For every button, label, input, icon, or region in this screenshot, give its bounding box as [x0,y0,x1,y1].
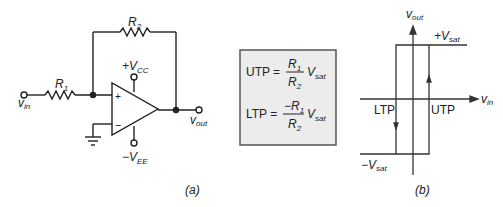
hysteresis-graph [360,26,478,175]
up-arrow-icon [427,76,431,82]
output-node [174,108,179,113]
circuit-diagram [21,28,202,146]
vout-terminal [196,107,202,113]
ground-icon [85,137,101,145]
pos-sat-label: +Vsat [434,29,460,44]
noninverting-sign: + [115,91,121,102]
x-axis-arrow-icon [470,96,478,102]
caption-a: (a) [185,183,200,197]
svg-text:LTP =: LTP = [246,107,277,121]
caption-b: (b) [415,183,430,197]
neg-sat-label: −Vsat [361,158,387,173]
svg-text:UTP =: UTP = [246,65,280,79]
x-axis-label: vin [481,92,494,107]
y-axis-label: vout [406,7,424,22]
r2-label: R2 [128,15,142,31]
y-axis-arrow-icon [410,26,416,34]
r1-label: R1 [55,77,68,93]
vcc-label: +VCC [122,59,149,75]
vee-label: −VEE [122,150,148,166]
inverting-sign: − [115,119,121,131]
down-arrow-icon [394,123,398,129]
vee-terminal [131,140,137,146]
vout-label: vout [190,113,208,128]
resistor-r1 [45,91,75,99]
resistor-r2 [120,28,150,36]
utp-label: UTP [431,103,455,117]
ltp-label: LTP [374,103,395,117]
schmitt-trigger-figure: R2 R1 +VCC −VEE vin vout + − (a) UTP = R… [0,0,503,207]
